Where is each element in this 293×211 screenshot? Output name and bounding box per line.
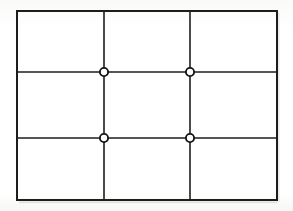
figure-canvas [0,0,293,211]
right-edge-shadow [278,13,279,202]
node-marker-top-left[interactable] [100,68,108,76]
node-markers [100,68,194,142]
outer-rectangle-border [17,11,277,200]
vertical-grid-lines [104,11,190,200]
node-marker-bottom-right[interactable] [186,134,194,142]
grid-diagram [0,0,293,211]
horizontal-grid-lines [17,72,277,138]
scan-shadow-group [19,13,279,203]
node-marker-top-right[interactable] [186,68,194,76]
node-marker-bottom-left[interactable] [100,134,108,142]
bottom-edge-shadow [19,202,277,204]
